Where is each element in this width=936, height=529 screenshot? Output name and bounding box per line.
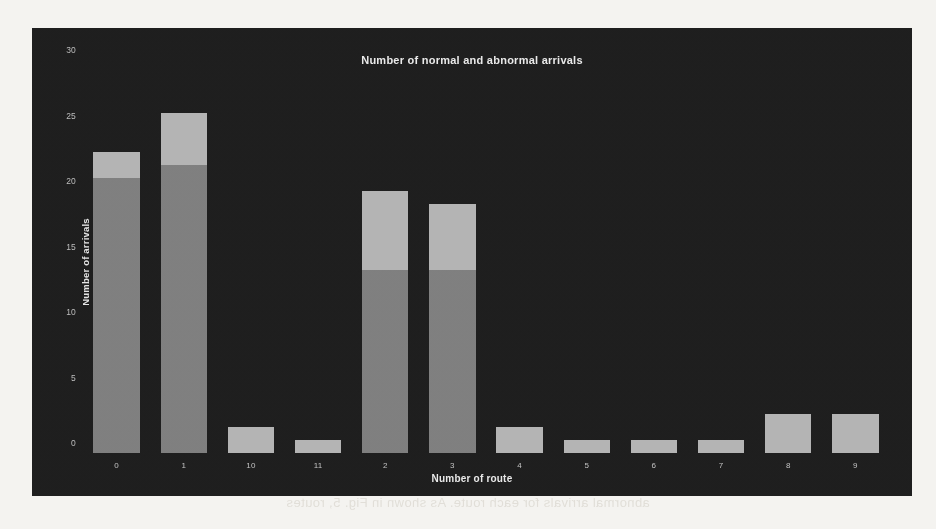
bar-group[interactable]: 11 [295, 440, 341, 453]
y-tick-label: 10 [66, 307, 76, 317]
chart-figure: Number of normal and abnormal arrivals N… [32, 28, 912, 496]
bar-group[interactable]: 4 [496, 427, 542, 453]
bar-segment-normal [362, 270, 408, 453]
bar-segment-abnormal [161, 113, 207, 165]
bar-group[interactable]: 3 [429, 204, 475, 453]
bar-segment-normal [161, 165, 207, 453]
bar-segment-abnormal [564, 440, 610, 453]
bar-segment-abnormal [698, 440, 744, 453]
bar-segment-abnormal [832, 414, 878, 453]
bar-group[interactable]: 2 [362, 191, 408, 453]
bar-group[interactable]: 8 [765, 414, 811, 453]
bar-segment-abnormal [765, 414, 811, 453]
bar-segment-abnormal [496, 427, 542, 453]
bar-segment-abnormal [631, 440, 677, 453]
plot-area: 051015202530 01101123456789 [83, 47, 889, 453]
page-bleed-through-text: abnormal arrivals for each route. As sho… [0, 495, 936, 529]
bar-group[interactable]: 1 [161, 113, 207, 454]
bar-segment-abnormal [93, 152, 139, 178]
bar-group[interactable]: 6 [631, 440, 677, 453]
x-tick-label: 4 [517, 461, 522, 470]
x-tick-label: 5 [584, 461, 589, 470]
bar-group[interactable]: 9 [832, 414, 878, 453]
x-tick-label: 10 [246, 461, 255, 470]
x-tick-label: 0 [114, 461, 119, 470]
bar-segment-normal [93, 178, 139, 453]
x-axis-title: Number of route [32, 473, 912, 484]
x-tick-label: 3 [450, 461, 455, 470]
bar-segment-normal [429, 270, 475, 453]
page-canvas: Number of normal and abnormal arrivals N… [0, 0, 936, 529]
bar-group[interactable]: 5 [564, 440, 610, 453]
y-tick-label: 15 [66, 242, 76, 252]
bar-group[interactable]: 0 [93, 152, 139, 453]
y-tick-label: 25 [66, 111, 76, 121]
x-tick-label: 11 [314, 461, 323, 470]
x-tick-label: 9 [853, 461, 858, 470]
bar-segment-abnormal [295, 440, 341, 453]
bar-segment-abnormal [362, 191, 408, 270]
chart-title: Number of normal and abnormal arrivals [32, 54, 912, 66]
y-axis-title: Number of arrivals [80, 218, 91, 306]
y-tick-label: 5 [71, 373, 76, 383]
x-tick-label: 7 [719, 461, 724, 470]
x-tick-label: 2 [383, 461, 388, 470]
bar-group[interactable]: 10 [228, 427, 274, 453]
x-tick-label: 1 [181, 461, 186, 470]
x-tick-label: 8 [786, 461, 791, 470]
y-tick-label: 0 [71, 438, 76, 448]
y-tick-label: 20 [66, 176, 76, 186]
bar-segment-abnormal [429, 204, 475, 269]
x-tick-label: 6 [652, 461, 657, 470]
bar-segment-abnormal [228, 427, 274, 453]
bar-group[interactable]: 7 [698, 440, 744, 453]
